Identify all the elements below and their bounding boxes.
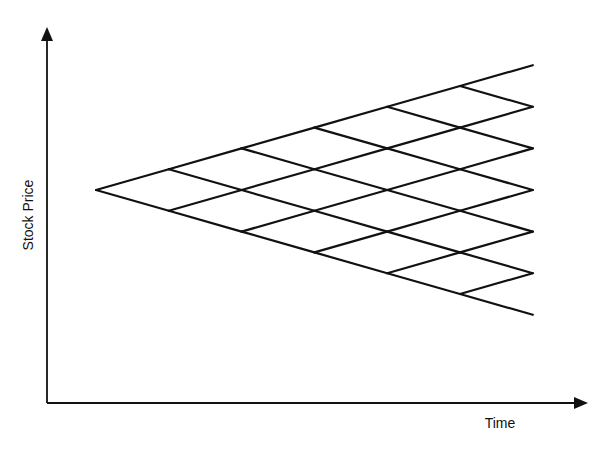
- tree-branch-up: [242, 169, 315, 190]
- tree-branch-up: [242, 211, 315, 232]
- tree-branch-down: [460, 211, 533, 232]
- y-axis-label: Stock Price: [20, 180, 36, 251]
- tree-branch-up: [460, 148, 533, 169]
- tree-branch-up: [460, 232, 533, 253]
- tree-branch-up: [387, 86, 460, 107]
- tree-branch-up: [314, 148, 387, 169]
- tree-branch-down: [387, 232, 460, 253]
- binomial-tree-lattice: [96, 65, 533, 315]
- tree-branch-down: [169, 211, 242, 232]
- tree-branch-down: [96, 190, 169, 211]
- tree-branch-up: [387, 252, 460, 273]
- tree-branch-down: [242, 232, 315, 253]
- tree-branch-up: [169, 148, 242, 169]
- tree-branch-down: [387, 107, 460, 128]
- tree-branch-up: [460, 273, 533, 294]
- tree-branch-down: [387, 273, 460, 294]
- binomial-tree-diagram: [0, 0, 609, 449]
- tree-branch-up: [169, 190, 242, 211]
- y-axis-arrow-icon: [41, 27, 53, 41]
- tree-branch-down: [314, 128, 387, 149]
- tree-branch-up: [314, 232, 387, 253]
- tree-branch-up: [387, 211, 460, 232]
- tree-branch-up: [96, 169, 169, 190]
- tree-branch-up: [387, 128, 460, 149]
- tree-branch-up: [314, 107, 387, 128]
- tree-branch-up: [242, 128, 315, 149]
- tree-branch-down: [242, 190, 315, 211]
- tree-branch-down: [460, 128, 533, 149]
- tree-branch-up: [314, 190, 387, 211]
- tree-branch-down: [460, 252, 533, 273]
- tree-branch-up: [460, 190, 533, 211]
- tree-branch-down: [460, 294, 533, 315]
- tree-branch-down: [242, 148, 315, 169]
- tree-branch-up: [460, 107, 533, 128]
- tree-branch-down: [460, 86, 533, 107]
- tree-branch-up: [460, 65, 533, 86]
- tree-branch-down: [460, 169, 533, 190]
- tree-branch-down: [387, 148, 460, 169]
- tree-branch-down: [314, 211, 387, 232]
- axes: [41, 27, 588, 409]
- tree-branch-up: [387, 169, 460, 190]
- tree-branch-down: [314, 252, 387, 273]
- tree-branch-down: [314, 169, 387, 190]
- x-axis-arrow-icon: [574, 397, 588, 409]
- x-axis-label: Time: [485, 415, 516, 431]
- tree-branch-down: [387, 190, 460, 211]
- tree-branch-down: [169, 169, 242, 190]
